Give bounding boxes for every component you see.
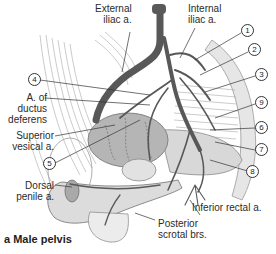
callout-3: 3 <box>255 68 268 81</box>
label-inferior-rectal: Inferior rectal a. <box>192 202 261 213</box>
label-dorsal-penile: Dorsal penile a. <box>2 180 54 202</box>
callout-8: 8 <box>246 165 259 178</box>
label-line: External <box>95 3 132 14</box>
label-line: vesical a. <box>2 141 54 152</box>
label-line: iliac a. <box>188 14 221 25</box>
corpus-cavernosum-section <box>65 180 79 202</box>
label-line: Superior <box>2 130 54 141</box>
callout-9: 9 <box>255 96 268 109</box>
label-line: deferens <box>2 114 47 125</box>
label-line: penile a. <box>2 191 54 202</box>
anatomy-illustration <box>0 0 276 254</box>
callout-7: 7 <box>255 143 268 156</box>
label-line: Dorsal <box>2 180 54 191</box>
male-pelvis-diagram: External iliac a. Internal iliac a. A. o… <box>0 0 276 254</box>
label-internal-iliac: Internal iliac a. <box>188 3 221 25</box>
label-superior-vesical: Superior vesical a. <box>2 130 54 152</box>
label-line: Internal <box>188 3 221 14</box>
callout-1: 1 <box>241 24 254 37</box>
label-external-iliac: External iliac a. <box>95 3 132 25</box>
label-line: Posterior <box>158 218 207 229</box>
label-ductus-deferens: A. of ductus deferens <box>2 92 47 125</box>
callout-4: 4 <box>28 73 41 86</box>
label-posterior-scrotal: Posterior scrotal brs. <box>158 218 207 240</box>
label-line: ductus <box>2 103 47 114</box>
callout-6: 6 <box>255 121 268 134</box>
label-line: A. of <box>2 92 47 103</box>
label-line: iliac a. <box>95 14 132 25</box>
prostate <box>122 159 156 181</box>
iliac-trunk-cut <box>152 4 166 14</box>
label-line: scrotal brs. <box>158 229 207 240</box>
callout-5: 5 <box>43 157 56 170</box>
callout-2: 2 <box>248 43 261 56</box>
figure-caption: a Male pelvis <box>4 233 72 245</box>
